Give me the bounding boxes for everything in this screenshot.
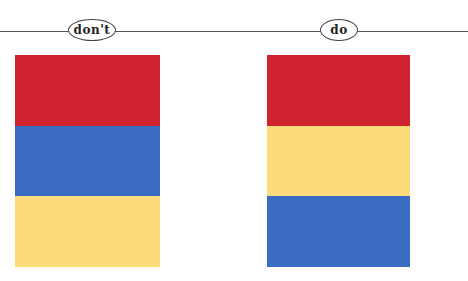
dont-stripe-blue — [15, 126, 160, 197]
do-label-text: do — [330, 23, 347, 37]
do-stripe-red — [267, 55, 410, 126]
do-stripe-yellow — [267, 126, 410, 197]
dont-stripe-yellow — [15, 196, 160, 267]
divider-line-left — [0, 31, 69, 32]
dont-label-text: don't — [74, 23, 111, 37]
do-flag — [267, 55, 410, 267]
dont-stripe-red — [15, 55, 160, 126]
divider-line-middle — [115, 31, 321, 32]
dont-label: don't — [68, 19, 116, 41]
dont-flag — [15, 55, 160, 267]
do-stripe-blue — [267, 196, 410, 267]
divider-line-right — [357, 31, 468, 32]
do-label: do — [320, 19, 358, 41]
